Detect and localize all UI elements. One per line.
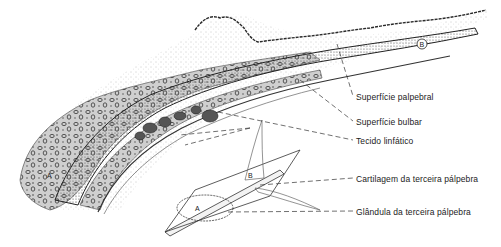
label-bulbar-surface: Superfície bulbar [356,117,422,127]
inset-third-eyelid: A B [165,120,320,236]
svg-text:A: A [195,205,200,212]
svg-text:B: B [248,172,253,179]
label-palpebral-surface: Superfície palpebral [356,92,434,102]
marker-a-section: A [47,172,52,179]
label-cartilage: Cartilagem da terceira pálpebra [356,174,478,184]
marker-b: B [420,41,425,48]
label-lymphatic-tissue: Tecido linfático [356,136,413,146]
label-gland: Glândula da terceira pálpebra [356,207,471,217]
